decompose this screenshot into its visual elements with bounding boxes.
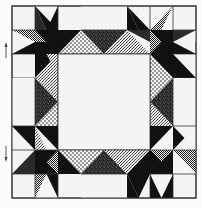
center-square: [58, 54, 150, 150]
quilt-diagram: [0, 0, 202, 208]
down-arrow-icon: [5, 146, 8, 162]
up-arrow-icon: [5, 42, 8, 58]
